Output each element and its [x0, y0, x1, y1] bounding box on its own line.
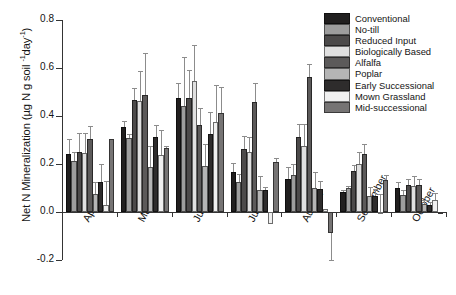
error-bar-cap — [67, 139, 72, 140]
legend-label: Alfalfa — [355, 57, 434, 68]
error-bar — [134, 88, 135, 100]
legend-swatch — [324, 57, 350, 68]
error-bar-cap — [88, 126, 93, 127]
error-bar-cap — [368, 187, 373, 188]
legend-swatch — [324, 91, 350, 102]
x-axis-tick — [172, 212, 173, 217]
error-bar-cap — [208, 112, 213, 113]
error-bar-cap — [313, 172, 318, 173]
error-bar-cap — [406, 179, 411, 180]
y-axis-tick-label-wrap: 0.8 — [16, 20, 54, 21]
error-bar-cap — [263, 187, 268, 188]
error-bar-cap — [132, 88, 137, 89]
y-axis-tick-label: 0.0 — [20, 205, 54, 216]
error-bar — [156, 125, 157, 137]
y-axis-title-sup-2: -1 — [18, 31, 27, 37]
error-bar-cap — [187, 70, 192, 71]
bar-chart-figure: Net N Mineralization (µg N g soil -1day-… — [0, 0, 456, 295]
error-bar — [69, 139, 70, 155]
error-bar — [74, 152, 75, 161]
legend-label: Mown Grassland — [355, 91, 434, 102]
legend-swatch — [324, 46, 350, 57]
error-bar — [380, 194, 381, 212]
y-axis-title-end: ) — [20, 28, 32, 32]
bar — [273, 162, 278, 212]
error-bar-cap — [373, 189, 378, 190]
bar — [383, 180, 388, 212]
error-bar-cap — [77, 133, 82, 134]
bar — [432, 200, 437, 212]
legend-label: No-till — [355, 24, 434, 35]
bar — [438, 212, 443, 214]
bar — [268, 212, 273, 224]
error-bar — [260, 176, 261, 190]
error-bar — [304, 124, 305, 146]
error-bar — [140, 71, 141, 101]
legend-swatch — [324, 102, 350, 113]
error-bar — [315, 172, 316, 188]
error-bar — [150, 146, 151, 166]
error-bar — [364, 144, 365, 154]
error-bar-cap — [192, 45, 197, 46]
legend-label: Reduced Input — [355, 35, 434, 46]
error-bar-cap — [433, 193, 438, 194]
y-axis-tick-label: 0.4 — [20, 109, 54, 120]
error-bar — [79, 133, 80, 152]
error-bar — [331, 233, 332, 259]
error-bar — [255, 83, 256, 102]
legend-label: Mid-successional — [355, 102, 434, 113]
y-axis-tick-label: 0.2 — [20, 157, 54, 168]
error-bar-cap — [362, 144, 367, 145]
bar — [109, 139, 114, 212]
error-bar-cap — [122, 121, 127, 122]
error-bar — [161, 130, 162, 155]
error-bar-cap — [242, 136, 247, 137]
bar — [328, 212, 333, 233]
x-axis-tick — [281, 212, 282, 217]
y-axis-tick-label-wrap: 0.0 — [16, 212, 54, 213]
y-axis-tick-label: -0.2 — [20, 253, 54, 264]
legend-label-column: ConventionalNo-tillReduced InputBiologic… — [355, 13, 434, 113]
legend-swatch — [324, 24, 350, 35]
error-bar-cap — [159, 130, 164, 131]
error-bar-cap — [198, 108, 203, 109]
legend-label: Biologically Based — [355, 46, 434, 57]
error-bar — [309, 64, 310, 77]
error-bar — [184, 57, 185, 105]
error-bar-cap — [297, 124, 302, 125]
error-bar-cap — [182, 57, 187, 58]
error-bar-cap — [143, 53, 148, 54]
error-bar-cap — [253, 83, 258, 84]
x-axis-tick — [336, 212, 337, 217]
legend-swatch — [324, 35, 350, 46]
bar — [164, 148, 169, 212]
legend-swatch — [324, 13, 350, 24]
error-bar-cap — [422, 200, 427, 201]
y-axis-tick-label-wrap: -0.2 — [16, 260, 54, 261]
error-bar — [205, 144, 206, 166]
y-axis-tick-label: 0.8 — [20, 13, 54, 24]
error-bar — [210, 112, 211, 134]
error-bar — [85, 133, 86, 153]
error-bar-cap — [83, 133, 88, 134]
error-bar — [370, 187, 371, 196]
bar — [218, 113, 223, 212]
error-bar-cap — [258, 176, 263, 177]
error-bar — [359, 152, 360, 163]
error-bar-cap — [329, 260, 334, 261]
y-axis-tick-label-wrap: 0.6 — [16, 68, 54, 69]
error-bar-cap — [99, 164, 104, 165]
error-bar-cap — [286, 167, 291, 168]
legend-swatch — [324, 80, 350, 91]
chart-legend: ConventionalNo-tillReduced InputBiologic… — [324, 13, 434, 113]
x-axis-tick — [62, 212, 63, 217]
error-bar — [288, 167, 289, 179]
error-bar — [178, 83, 179, 97]
error-bar — [216, 85, 217, 122]
error-bar-cap — [214, 85, 219, 86]
error-bar-cap — [231, 163, 236, 164]
legend-label: Poplar — [355, 68, 434, 79]
legend-label: Conventional — [355, 13, 434, 24]
bar — [372, 196, 377, 212]
error-bar — [249, 137, 250, 152]
